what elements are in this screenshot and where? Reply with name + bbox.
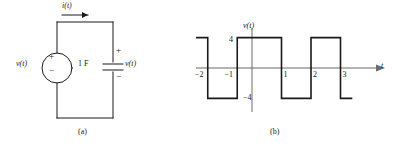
x-tick-label: 1 (284, 70, 288, 79)
y-axis-label: v(t) (243, 22, 254, 30)
x-tick-label: 2 (313, 70, 317, 79)
panel-b-waveform: v(t) 4 −4 t (b) −2−1123 (196, 0, 393, 148)
voltage-source-symbol (42, 53, 72, 83)
source-minus-sign: − (49, 66, 54, 75)
circuit-schematic (0, 0, 196, 148)
amplitude-positive-label: 4 (229, 36, 233, 44)
capacitor-plus-sign: + (116, 46, 121, 55)
capacitor-voltage-label: v(t) (125, 60, 136, 68)
source-plus-sign: + (49, 52, 54, 61)
source-voltage-label: v(t) (16, 60, 27, 68)
panel-a-circuit: i(t) v(t) + − 1 F + v(t) − (a) (0, 0, 196, 148)
current-label: i(t) (62, 2, 72, 10)
x-tick-label: 3 (343, 70, 347, 79)
panel-a-caption: (a) (78, 128, 87, 136)
x-tick-label: −1 (225, 70, 234, 79)
capacitor-minus-sign: − (116, 72, 121, 81)
current-arrow-head (82, 12, 88, 18)
x-axis-label: t (381, 62, 383, 70)
panel-b-caption: (b) (270, 128, 279, 136)
capacitor-value-label: 1 F (78, 60, 88, 68)
figure-root: i(t) v(t) + − 1 F + v(t) − (a) v(t) 4 −4… (0, 0, 393, 148)
x-tick-label: −2 (195, 70, 204, 79)
amplitude-negative-label: −4 (243, 94, 252, 102)
